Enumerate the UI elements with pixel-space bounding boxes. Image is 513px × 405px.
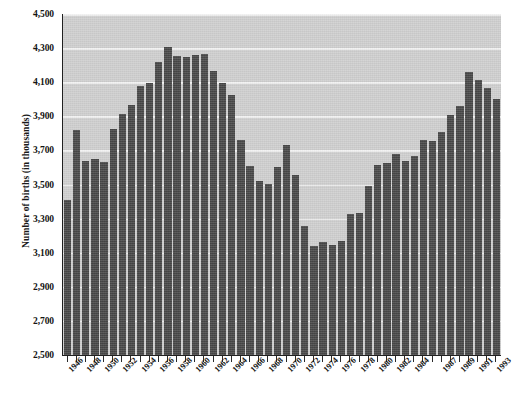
x-axis-tick-label: 1954 (139, 355, 158, 374)
x-axis-tick-label: 1976 (339, 355, 358, 374)
x-axis-tick-label: 1956 (157, 355, 176, 374)
bar (356, 213, 363, 355)
x-axis-tick-label: 1966 (248, 355, 267, 374)
bar (283, 145, 290, 355)
bar (392, 154, 399, 355)
bar (319, 242, 326, 355)
bar (411, 156, 418, 355)
bar (493, 99, 500, 355)
bar (192, 55, 199, 355)
x-axis-tick-label: 1991 (476, 355, 495, 374)
plot-area (62, 14, 501, 356)
bar (256, 181, 263, 355)
bar (183, 57, 190, 355)
x-axis-tick-label: 1980 (376, 355, 395, 374)
x-axis-tick-label: 1989 (458, 355, 477, 374)
bar (374, 165, 381, 355)
bar (64, 200, 71, 355)
bar (338, 241, 345, 355)
bar (82, 161, 89, 355)
bar (137, 86, 144, 355)
x-axis-tick-label: 1948 (84, 355, 103, 374)
x-axis-tick-label: 1952 (120, 355, 139, 374)
x-axis-tick-label: 1972 (303, 355, 322, 374)
bar (100, 162, 107, 355)
bar (91, 159, 98, 355)
x-axis-tick-label: 1960 (193, 355, 212, 374)
bar (484, 88, 491, 355)
bar (110, 129, 117, 355)
bar (119, 114, 126, 355)
x-axis-tick-label: 1962 (212, 355, 231, 374)
bar (237, 140, 244, 355)
bar (146, 83, 153, 355)
bar (73, 130, 80, 355)
bar (347, 214, 354, 355)
x-axis-tick-label: 1993 (494, 355, 513, 374)
bar (465, 72, 472, 355)
x-axis-tick-label: 1984 (412, 355, 431, 374)
bar (301, 226, 308, 355)
x-axis-tick-label: 1970 (285, 355, 304, 374)
bar (402, 161, 409, 355)
bar (329, 245, 336, 355)
bar (201, 54, 208, 355)
x-axis-tick-label: 1958 (175, 355, 194, 374)
x-axis-tick-label: 1964 (230, 355, 249, 374)
bar (475, 80, 482, 355)
bar (429, 141, 436, 355)
bar (173, 56, 180, 355)
bar (274, 167, 281, 355)
bar (219, 83, 226, 355)
bar (438, 132, 445, 355)
bar (155, 62, 162, 355)
bar (128, 105, 135, 355)
bar (456, 106, 463, 355)
x-axis-tick-label: 1974 (321, 355, 340, 374)
bar (164, 47, 171, 355)
bar (420, 140, 427, 355)
x-axis-tick-label: 1978 (358, 355, 377, 374)
x-axis-tick-label: 1950 (102, 355, 121, 374)
bar (447, 115, 454, 355)
bar (228, 95, 235, 355)
bar (292, 175, 299, 355)
x-axis-tick-label: 1987 (440, 355, 459, 374)
x-axis-tick-label: 1946 (66, 355, 85, 374)
x-axis-tick-label: 1982 (394, 355, 413, 374)
bar (310, 246, 317, 355)
bar (365, 186, 372, 355)
bar (246, 166, 253, 355)
bar (383, 163, 390, 355)
bar (210, 71, 217, 355)
bar-series (63, 14, 501, 355)
x-axis-tick-label: 1968 (266, 355, 285, 374)
bar (265, 184, 272, 355)
